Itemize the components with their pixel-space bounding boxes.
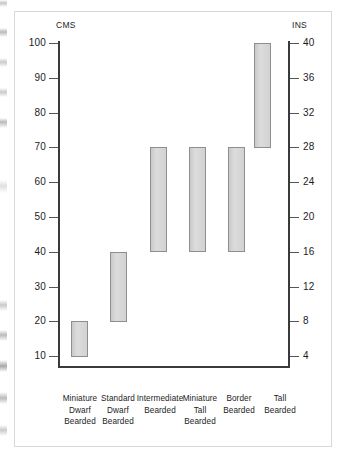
right-tick-8 <box>290 321 299 322</box>
right-tick-label-12: 12 <box>303 282 325 292</box>
left-tick-10 <box>49 356 58 357</box>
left-tick-20 <box>49 321 58 322</box>
left-tick-label-80: 80 <box>24 108 46 118</box>
range-bar-miniature-tall-bearded <box>189 147 206 252</box>
left-tick-label-100: 100 <box>24 38 46 48</box>
range-bar-standard-dwarf-bearded <box>110 252 127 322</box>
left-tick-50 <box>49 217 58 218</box>
right-tick-16 <box>290 252 299 253</box>
category-label-tall-bearded: Tall Bearded <box>258 393 302 416</box>
right-tick-label-40: 40 <box>303 38 325 48</box>
left-axis-line <box>58 41 60 368</box>
category-line: Bearded <box>92 416 144 428</box>
range-bar-chart: CMS INS 100 90 80 70 60 50 40 30 20 10 4… <box>0 0 343 458</box>
right-tick-24 <box>290 182 299 183</box>
left-tick-40 <box>49 252 58 253</box>
left-tick-label-50: 50 <box>24 212 46 222</box>
right-tick-label-32: 32 <box>303 108 325 118</box>
right-tick-4 <box>290 356 299 357</box>
left-tick-label-10: 10 <box>24 351 46 361</box>
right-tick-40 <box>290 43 299 44</box>
category-line: Bearded <box>258 405 302 417</box>
category-line: Bearded <box>216 405 262 417</box>
right-tick-label-16: 16 <box>303 247 325 257</box>
right-tick-label-4: 4 <box>303 351 325 361</box>
right-tick-36 <box>290 78 299 79</box>
range-bar-miniature-dwarf-bearded <box>71 321 88 357</box>
right-axis-line <box>288 41 290 368</box>
left-tick-label-40: 40 <box>24 247 46 257</box>
right-tick-label-24: 24 <box>303 177 325 187</box>
left-tick-label-90: 90 <box>24 73 46 83</box>
right-tick-label-8: 8 <box>303 316 325 326</box>
range-bar-intermediate-bearded <box>150 147 167 252</box>
category-line: Tall <box>258 393 302 405</box>
right-tick-20 <box>290 217 299 218</box>
category-line: Border <box>216 393 262 405</box>
left-tick-80 <box>49 113 58 114</box>
right-tick-12 <box>290 287 299 288</box>
range-bar-tall-bearded <box>254 43 271 148</box>
left-tick-70 <box>49 147 58 148</box>
right-tick-label-28: 28 <box>303 142 325 152</box>
range-bar-border-bearded <box>228 147 245 252</box>
right-tick-28 <box>290 147 299 148</box>
left-tick-30 <box>49 287 58 288</box>
left-tick-60 <box>49 182 58 183</box>
right-tick-label-36: 36 <box>303 73 325 83</box>
category-line: Bearded <box>174 416 226 428</box>
left-tick-label-60: 60 <box>24 177 46 187</box>
right-tick-label-20: 20 <box>303 212 325 222</box>
left-tick-label-30: 30 <box>24 282 46 292</box>
right-axis-unit-label: INS <box>292 20 307 30</box>
left-tick-label-20: 20 <box>24 316 46 326</box>
left-tick-label-70: 70 <box>24 142 46 152</box>
category-label-border-bearded: Border Bearded <box>216 393 262 416</box>
baseline-axis <box>58 366 290 368</box>
left-tick-100 <box>49 43 58 44</box>
right-tick-32 <box>290 113 299 114</box>
left-axis-unit-label: CMS <box>56 20 76 30</box>
left-tick-90 <box>49 78 58 79</box>
